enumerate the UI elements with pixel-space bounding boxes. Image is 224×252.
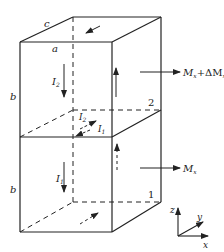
magnetization-box-diagram: c a b b I2 I1 I2 I1 2 1 Mx+ΔMx Mx z y x (0, 0, 224, 252)
label-I2-mid: I2 (78, 112, 87, 123)
moment-arrows (140, 72, 180, 168)
label-a: a (52, 43, 58, 54)
label-b-top: b (10, 91, 16, 102)
label-Mx: Mx (182, 163, 197, 175)
label-c: c (44, 18, 50, 29)
label-I1-mid: I1 (97, 124, 105, 135)
axis-label-x: x (203, 240, 208, 250)
current-arrows (64, 26, 117, 224)
label-b-bottom: b (10, 184, 16, 195)
label-box-1: 1 (148, 189, 154, 200)
axes (178, 208, 208, 236)
label-Mx-plus-dMx: Mx+ΔMx (182, 67, 224, 79)
box-outline (20, 17, 161, 232)
hidden-edges (20, 17, 161, 232)
label-I2-vertical: I2 (51, 76, 60, 88)
label-I1-vertical: I1 (55, 173, 64, 185)
axis-label-z: z (169, 205, 175, 215)
axis-label-y: y (196, 212, 203, 222)
label-box-2: 2 (148, 97, 154, 108)
